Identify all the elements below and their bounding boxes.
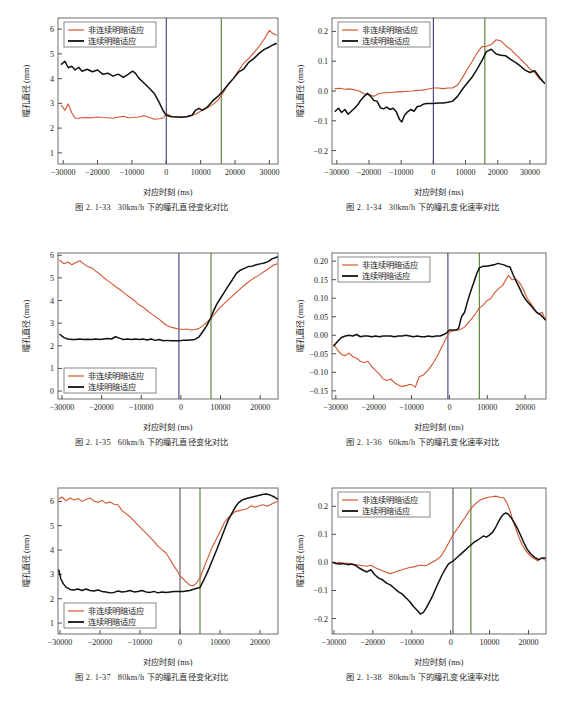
x-tick-label: 0 (431, 168, 435, 177)
y-tick-label: 0.0 (318, 87, 328, 96)
y-tick-label: 3 (50, 570, 54, 579)
chart-fig-2-1-35: −30000−20000−10000010000200000123456对应时刻… (18, 243, 286, 433)
x-tick-label: −30000 (322, 638, 347, 647)
x-tick-label: 10000 (480, 638, 500, 647)
y-tick-label: 0.1 (318, 530, 328, 539)
figure-block-0: −30000−20000−100000100002000030000123456… (18, 8, 286, 212)
x-tick-label: 0 (164, 168, 168, 177)
figure-caption-0: 图 2. 1-3330km/h 下的瞳孔直径变化对比 (18, 200, 286, 212)
y-tick-label: 4 (50, 75, 54, 84)
y-tick-label: 0.05 (314, 313, 328, 322)
y-tick-label: 0.0 (318, 558, 328, 567)
y-tick-label: 4 (50, 297, 54, 306)
y-tick-label: 4 (50, 546, 54, 555)
chart-legend: 非连续明暗适应连续明暗适应 (64, 22, 156, 47)
y-tick-label: 1 (50, 619, 54, 628)
y-tick-label: 3 (50, 99, 54, 108)
y-tick-label: −0.1 (313, 586, 328, 595)
x-tick-label: −20000 (89, 403, 114, 412)
x-tick-label: −20000 (88, 638, 113, 647)
figure-caption-3: 图 2. 1-3660km/h 下的瞳孔变化速率对比 (292, 435, 554, 447)
x-tick-label: −20000 (85, 168, 110, 177)
y-tick-label: 1 (50, 364, 54, 373)
y-tick-label: 2 (50, 124, 54, 133)
chart-legend: 非连续明暗适应连续明暗适应 (338, 492, 430, 517)
legend-label-1: 连续明暗适应 (362, 36, 410, 46)
chart-fig-2-1-37: −30000−20000−1000001000020000123456对应时刻 … (18, 478, 286, 668)
chart-fig-2-1-34: −30000−20000−100000100002000030000−0.2−0… (292, 8, 554, 198)
chart-legend: 非连续明暗适应连续明暗适应 (338, 257, 430, 282)
series-line-1 (61, 43, 276, 117)
figure-block-5: −30000−20000−1000001000020000−0.2−0.10.0… (292, 478, 554, 682)
y-tick-label: 5 (50, 50, 54, 59)
chart-svg-0: −30000−20000−100000100002000030000123456… (18, 8, 286, 198)
x-tick-label: −30000 (324, 403, 349, 412)
y-axis-label: 瞳孔直径 (mm) (21, 65, 31, 118)
y-tick-label: 5 (50, 274, 54, 283)
x-tick-label: 20000 (250, 403, 270, 412)
x-tick-label: 20000 (250, 638, 270, 647)
y-tick-label: 0.15 (314, 276, 328, 285)
y-tick-label: 6 (50, 497, 54, 506)
x-tick-label: −30000 (325, 168, 350, 177)
figure-title-0: 30km/h 下的瞳孔直径变化对比 (118, 203, 229, 212)
legend-label-0: 非连续明暗适应 (362, 495, 418, 505)
figure-title-4: 80km/h 下的瞳孔直径变化对比 (118, 673, 229, 682)
y-tick-label: 5 (50, 522, 54, 531)
figure-number-4: 图 2. 1-37 (75, 673, 110, 682)
x-tick-label: −10000 (128, 638, 153, 647)
x-tick-label: 20000 (515, 403, 535, 412)
legend-label-1: 连续明暗适应 (362, 506, 410, 516)
figure-title-3: 60km/h 下的瞳孔变化速率对比 (389, 438, 500, 447)
x-tick-label: 10000 (191, 168, 211, 177)
x-tick-label: 0 (179, 403, 183, 412)
x-tick-label: −10000 (389, 168, 414, 177)
x-axis-label: 对应时刻 (ms) (143, 422, 192, 432)
legend-label-0: 非连续明暗适应 (88, 606, 144, 616)
x-tick-label: 10000 (210, 638, 230, 647)
figure-block-4: −30000−20000−1000001000020000123456对应时刻 … (18, 478, 286, 682)
series-line-0 (334, 275, 545, 387)
series-line-1 (335, 49, 544, 122)
x-axis-label: 对应时刻 (ms) (143, 657, 192, 667)
chart-svg-5: −30000−20000−1000001000020000−0.2−0.10.0… (292, 478, 554, 668)
x-tick-label: −30000 (51, 168, 76, 177)
series-line-0 (335, 40, 544, 97)
y-axis-label: 瞳孔直径 (mm) (295, 65, 305, 118)
y-tick-label: 6 (50, 25, 54, 34)
figure-caption-4: 图 2. 1-3780km/h 下的瞳孔直径变化对比 (18, 670, 286, 682)
y-tick-label: −0.10 (309, 368, 328, 377)
figure-title-5: 80km/h 下的瞳孔变化速率对比 (389, 673, 500, 682)
y-tick-label: 6 (50, 251, 54, 260)
series-line-0 (60, 260, 277, 330)
legend-label-0: 非连续明暗适应 (362, 25, 418, 35)
y-tick-label: −0.2 (313, 147, 328, 156)
x-tick-label: −30000 (50, 403, 75, 412)
x-tick-label: 20000 (518, 638, 538, 647)
y-tick-label: 3 (50, 319, 54, 328)
figure-title-1: 30km/h 下的瞳孔变化速率对比 (389, 203, 500, 212)
y-axis-label: 瞳孔直径 (mm) (295, 300, 305, 353)
figure-page: −30000−20000−100000100002000030000123456… (0, 0, 569, 717)
series-line-1 (333, 513, 545, 614)
x-tick-label: 0 (178, 638, 182, 647)
series-line-1 (60, 257, 277, 341)
legend-label-1: 连续明暗适应 (362, 271, 410, 281)
y-tick-label: 2 (50, 342, 54, 351)
x-tick-label: −30000 (48, 638, 73, 647)
x-tick-label: 10000 (211, 403, 231, 412)
figure-number-3: 图 2. 1-36 (346, 438, 381, 447)
x-tick-label: 10000 (477, 403, 497, 412)
figure-number-2: 图 2. 1-35 (75, 438, 110, 447)
x-tick-label: 30000 (520, 168, 540, 177)
y-axis-label: 瞳孔直径 (mm) (295, 535, 305, 588)
chart-svg-2: −30000−20000−10000010000200000123456对应时刻… (18, 243, 286, 433)
y-tick-label: 0.20 (314, 257, 328, 266)
x-tick-label: −20000 (361, 638, 386, 647)
figure-block-1: −30000−20000−100000100002000030000−0.2−0… (292, 8, 554, 212)
chart-svg-4: −30000−20000−1000001000020000123456对应时刻 … (18, 478, 286, 668)
x-tick-label: 0 (449, 638, 453, 647)
legend-label-0: 非连续明暗适应 (362, 260, 418, 270)
y-tick-label: −0.05 (309, 350, 328, 359)
figure-caption-1: 图 2. 1-3430km/h 下的瞳孔变化速率对比 (292, 200, 554, 212)
